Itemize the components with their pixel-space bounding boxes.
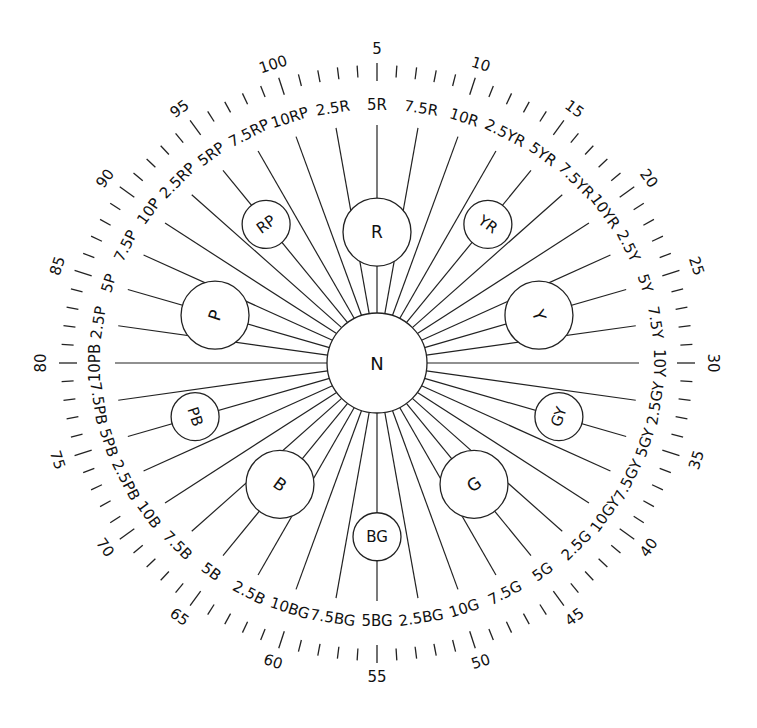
scale-tick xyxy=(680,344,692,345)
hue-circle-b: B xyxy=(246,450,314,518)
scale-tick xyxy=(91,485,102,490)
hue-label: 5BG xyxy=(361,612,392,630)
hue-label: 7.5BG xyxy=(309,605,357,630)
hue-label: 7.5PB xyxy=(86,381,111,426)
scale-tick xyxy=(190,591,201,606)
scale-tick xyxy=(161,146,169,155)
scale-tick xyxy=(679,326,691,328)
hue-label: 10PB xyxy=(86,344,104,382)
hue-label: 5RP xyxy=(194,138,228,170)
scale-tick xyxy=(208,111,214,121)
hue-spoke xyxy=(144,386,333,471)
scale-number: 95 xyxy=(166,96,192,122)
hue-label: 7.5GY xyxy=(610,456,646,504)
scale-tick xyxy=(71,434,83,437)
scale-number: 80 xyxy=(32,353,50,372)
hue-spoke xyxy=(426,371,635,400)
scale-number: 90 xyxy=(92,165,118,191)
scale-tick xyxy=(585,146,593,155)
scale-number: 35 xyxy=(685,448,708,472)
scale-tick xyxy=(489,629,493,640)
scale-tick xyxy=(62,344,74,345)
scale-number: 60 xyxy=(261,650,285,673)
scale-tick xyxy=(453,640,456,652)
hue-label: 7.5Y xyxy=(644,305,667,341)
hue-label: 5YR xyxy=(526,138,560,170)
hue-circle-y: Y xyxy=(505,281,573,349)
scale-tick xyxy=(75,450,92,456)
scale-number: 20 xyxy=(636,165,662,191)
scale-number: 40 xyxy=(636,535,662,561)
scale-tick xyxy=(63,399,75,401)
hue-label: 7.5B xyxy=(159,527,196,564)
scale-tick xyxy=(506,622,511,633)
scale-number: 5 xyxy=(372,40,382,58)
scale-tick xyxy=(489,86,493,97)
scale-tick xyxy=(120,529,135,540)
hue-circle-label: BG xyxy=(366,528,388,546)
scale-tick xyxy=(63,326,75,328)
scale-tick xyxy=(506,93,511,104)
scale-tick xyxy=(298,74,301,86)
scale-tick xyxy=(71,289,83,292)
hue-label: 10B xyxy=(133,497,165,531)
scale-tick xyxy=(585,571,593,580)
scale-number: 70 xyxy=(92,535,118,561)
scale-tick xyxy=(208,604,214,614)
scale-tick xyxy=(261,629,265,640)
scale-tick xyxy=(225,614,231,625)
hue-label: 2.5YR xyxy=(482,115,529,151)
scale-tick xyxy=(134,545,143,553)
scale-tick xyxy=(662,270,679,276)
hue-label: 5B xyxy=(198,559,225,585)
scale-tick xyxy=(176,133,184,142)
scale-tick xyxy=(553,120,564,135)
scale-number: 65 xyxy=(166,604,192,630)
scale-tick xyxy=(571,583,579,592)
scale-tick xyxy=(147,159,156,167)
scale-tick xyxy=(634,516,644,522)
scale-tick xyxy=(396,648,397,660)
scale-tick xyxy=(279,78,285,95)
scale-tick xyxy=(679,399,691,401)
hue-spoke xyxy=(425,378,627,436)
neutral-center: N xyxy=(327,313,427,413)
scale-tick xyxy=(676,417,688,419)
scale-tick xyxy=(110,516,120,522)
scale-tick xyxy=(242,622,247,633)
scale-tick xyxy=(571,133,579,142)
hue-label: 7.5RP xyxy=(226,115,273,151)
hue-label: 7.5P xyxy=(110,227,141,264)
scale-tick xyxy=(652,485,663,490)
hue-label: 2.5B xyxy=(230,577,269,609)
scale-tick xyxy=(676,307,688,309)
scale-tick xyxy=(134,173,143,181)
hue-spoke xyxy=(128,378,330,436)
hue-label: 5G xyxy=(529,558,557,585)
scale-tick xyxy=(540,604,546,614)
scale-tick xyxy=(540,111,546,121)
hue-circle-r: R xyxy=(343,198,411,266)
scale-tick xyxy=(620,529,635,540)
hue-spoke xyxy=(118,371,327,400)
munsell-hue-circle-diagram: RYRYGYGBGBPBPRP N 2.5R5R7.5R10R2.5YR5YR7… xyxy=(0,0,757,728)
hue-circle-p: P xyxy=(181,281,249,349)
scale-tick xyxy=(75,270,92,276)
scale-tick xyxy=(318,644,320,656)
hue-label: 5R xyxy=(367,96,387,114)
hue-label: 5PB xyxy=(96,426,122,459)
hue-label: 7.5G xyxy=(485,577,525,609)
scale-tick xyxy=(671,434,683,437)
hue-label: 10R xyxy=(447,105,481,131)
hue-label: 5P xyxy=(97,272,120,295)
hue-label: 10Y xyxy=(650,349,668,378)
hue-spoke xyxy=(385,412,418,598)
scale-tick xyxy=(611,545,620,553)
hue-label: 7.5R xyxy=(403,97,440,120)
scale-tick xyxy=(662,450,679,456)
scale-tick xyxy=(611,173,620,181)
scale-number: 50 xyxy=(469,650,493,673)
scale-tick xyxy=(357,648,358,660)
scale-tick xyxy=(396,66,397,78)
scale-tick xyxy=(67,417,79,419)
